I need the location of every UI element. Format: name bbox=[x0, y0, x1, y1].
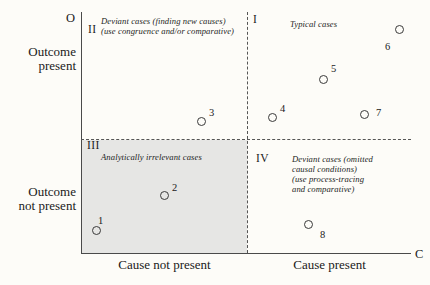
data-point-marker bbox=[197, 117, 206, 126]
quadrant-caption-iii: Analytically irrelevant cases bbox=[101, 152, 202, 162]
vertical-divider bbox=[247, 12, 248, 253]
quadrant-numeral-ii: II bbox=[88, 23, 96, 35]
x-axis-end-letter: C bbox=[415, 247, 424, 262]
data-point-marker bbox=[360, 110, 369, 119]
data-point-label: 4 bbox=[280, 103, 285, 114]
quadrant-numeral-iii: III bbox=[87, 139, 100, 151]
data-point-marker bbox=[268, 113, 277, 122]
y-axis-end-letter: O bbox=[66, 11, 75, 26]
quadrant-numeral-iv: IV bbox=[256, 152, 269, 164]
data-point-label: 8 bbox=[320, 229, 325, 240]
data-point-label: 5 bbox=[331, 63, 336, 74]
data-point-marker bbox=[304, 220, 313, 229]
data-point-label: 2 bbox=[172, 182, 177, 193]
y-axis-label-outcome-not-present: Outcome not present bbox=[0, 185, 76, 213]
figure-canvas: O C Outcome present Outcome not present … bbox=[0, 0, 430, 285]
data-point-label: 6 bbox=[385, 41, 390, 52]
horizontal-divider bbox=[81, 139, 411, 140]
data-point-marker bbox=[395, 25, 404, 34]
data-point-label: 7 bbox=[376, 107, 381, 118]
x-axis-label-cause-present: Cause present bbox=[248, 258, 411, 272]
quadrant-caption-iv: Deviant cases (omitted causal conditions… bbox=[292, 154, 373, 194]
quadrant-caption-i: Typical cases bbox=[290, 19, 337, 29]
x-axis-line bbox=[81, 253, 411, 254]
data-point-marker bbox=[160, 191, 169, 200]
y-axis-label-outcome-present: Outcome present bbox=[0, 45, 76, 73]
data-point-label: 1 bbox=[98, 215, 103, 226]
data-point-label: 3 bbox=[209, 107, 214, 118]
data-point-marker bbox=[319, 75, 328, 84]
quadrant-numeral-i: I bbox=[253, 13, 257, 25]
y-axis-line bbox=[81, 12, 82, 254]
x-axis-label-cause-not-present: Cause not present bbox=[82, 258, 247, 272]
data-point-marker bbox=[92, 226, 101, 235]
quadrant-caption-ii: Deviant cases (finding new causes) (use … bbox=[101, 16, 234, 36]
